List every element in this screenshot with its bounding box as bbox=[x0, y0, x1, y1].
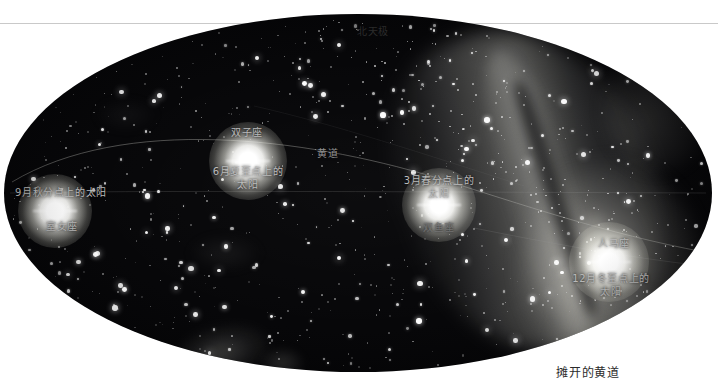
label-sun-september-equinox: 9月秋分点上的太阳 bbox=[4, 186, 120, 199]
label-constellation-pisces: 双鱼座 bbox=[389, 221, 489, 234]
label-sun-june-solstice: 6月夏至点上的 太阳 bbox=[193, 165, 303, 191]
label-constellation-sagittarius: 人马座 bbox=[564, 237, 664, 250]
sun-core bbox=[605, 258, 614, 267]
label-sun-december-solstice: 12月冬至点上的 太阳 bbox=[552, 272, 670, 298]
label-constellation-gemini: 双子座 bbox=[192, 126, 302, 139]
figure-canvas: 北天极 南天极 双子座 6月夏至点上的 太阳 黄道 9月秋分点上的太阳 室女座 … bbox=[0, 0, 718, 387]
all-sky-ellipse-map: 北天极 南天极 双子座 6月夏至点上的 太阳 黄道 9月秋分点上的太阳 室女座 … bbox=[4, 14, 712, 372]
label-ecliptic: 黄道 bbox=[293, 147, 363, 160]
label-sun-march-equinox: 3月春分点上的 太阳 bbox=[384, 174, 494, 200]
label-north-celestial-pole: 北天极 bbox=[328, 25, 418, 38]
label-constellation-virgo: 室女座 bbox=[12, 220, 112, 233]
sun-core bbox=[51, 207, 60, 216]
sun-core bbox=[435, 201, 444, 210]
figure-caption: 摊开的黄道 bbox=[556, 363, 620, 380]
